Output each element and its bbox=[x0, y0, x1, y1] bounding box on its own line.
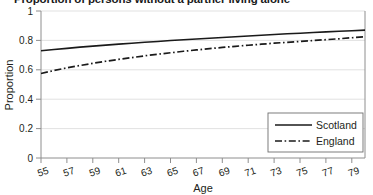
y-tick-label: 0.4 bbox=[19, 94, 33, 105]
y-tick-label: 0.8 bbox=[19, 35, 33, 46]
x-axis-ticks: 55 57 59 61 63 65 67 69 71 73 75 77 79 bbox=[36, 158, 361, 179]
chart-figure: Proportion of persons without a partner … bbox=[0, 0, 373, 195]
x-tick-label: 79 bbox=[347, 165, 361, 179]
y-axis-title: Proportion bbox=[3, 60, 15, 111]
y-tick-label: 1 bbox=[27, 6, 33, 17]
series-line-england bbox=[41, 37, 365, 74]
x-tick-label: 67 bbox=[191, 165, 205, 179]
x-tick-label: 75 bbox=[295, 165, 309, 179]
legend-label-england: England bbox=[316, 135, 355, 147]
y-axis-ticks: 1 0.8 0.6 0.4 0.2 0 bbox=[19, 6, 41, 164]
x-tick-label: 57 bbox=[62, 165, 76, 179]
x-tick-label: 77 bbox=[321, 165, 335, 179]
x-tick-label: 61 bbox=[114, 165, 128, 179]
x-tick-label: 63 bbox=[140, 165, 154, 179]
x-tick-label: 69 bbox=[217, 165, 231, 179]
x-tick-label: 73 bbox=[269, 165, 283, 179]
x-tick-label: 59 bbox=[88, 165, 102, 179]
chart-legend: Scotland England bbox=[268, 113, 363, 152]
y-tick-label: 0.2 bbox=[19, 123, 33, 134]
x-tick-label: 65 bbox=[165, 165, 179, 179]
x-axis-title: Age bbox=[193, 182, 213, 194]
x-tick-label: 55 bbox=[36, 165, 50, 179]
y-tick-label: 0 bbox=[27, 153, 33, 164]
legend-label-scotland: Scotland bbox=[316, 119, 357, 131]
line-chart-plot: 1 0.8 0.6 0.4 0.2 0 Proportion 55 57 bbox=[0, 0, 373, 195]
y-tick-label: 0.6 bbox=[19, 64, 33, 75]
x-tick-label: 71 bbox=[243, 165, 257, 179]
gridlines bbox=[41, 11, 365, 129]
